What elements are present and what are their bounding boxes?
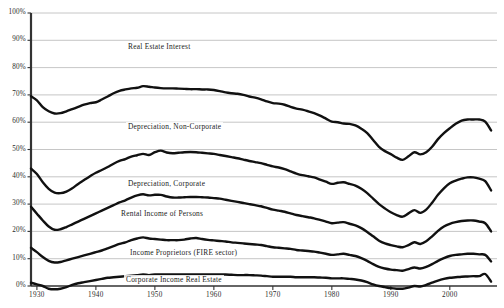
x-axis-tick-label: 1930 bbox=[17, 291, 57, 299]
chart-plot-area bbox=[0, 0, 504, 308]
band-label-rental-income-of-persons: Rental Income of Persons bbox=[119, 209, 205, 218]
y-axis-tick-label: 70% bbox=[0, 90, 26, 98]
band-label-real-estate-interest: Real Estate Interest bbox=[126, 42, 192, 51]
y-axis-tick-label: 50% bbox=[0, 145, 26, 153]
y-axis-tick-label: 40% bbox=[0, 172, 26, 180]
y-axis-tick-label: 30% bbox=[0, 199, 26, 207]
x-axis-tick-label: 1980 bbox=[312, 291, 352, 299]
band-label-corporate-income-real-estate: Corporate Income Real Estate bbox=[124, 275, 224, 284]
y-axis-tick-label: 100% bbox=[0, 8, 26, 16]
y-axis-tick-label: 90% bbox=[0, 35, 26, 43]
series-line bbox=[31, 274, 491, 289]
series-line bbox=[31, 194, 491, 247]
series-line bbox=[31, 86, 491, 160]
y-axis-tick-label: 80% bbox=[0, 63, 26, 71]
x-axis-tick-label: 2000 bbox=[430, 291, 470, 299]
band-label-income-proprietors-fire: Income Proprietors (FIRE sector) bbox=[128, 248, 239, 257]
y-axis-tick-label: 20% bbox=[0, 226, 26, 234]
y-axis-tick-label: 10% bbox=[0, 254, 26, 262]
x-axis-tick-label: 1970 bbox=[253, 291, 293, 299]
x-axis-tick-label: 1990 bbox=[371, 291, 411, 299]
x-axis-tick-label: 1950 bbox=[135, 291, 175, 299]
y-axis-tick-label: 0% bbox=[0, 281, 26, 289]
x-axis-tick-label: 1940 bbox=[76, 291, 116, 299]
y-axis-tick-label: 60% bbox=[0, 117, 26, 125]
chart-container: 0%10%20%30%40%50%60%70%80%90%100% 193019… bbox=[0, 0, 504, 308]
band-label-depreciation-corporate: Depreciation, Corporate bbox=[126, 179, 207, 188]
band-label-depreciation-non-corporate: Depreciation, Non-Corporate bbox=[126, 122, 223, 131]
x-axis-tick-label: 1960 bbox=[194, 291, 234, 299]
